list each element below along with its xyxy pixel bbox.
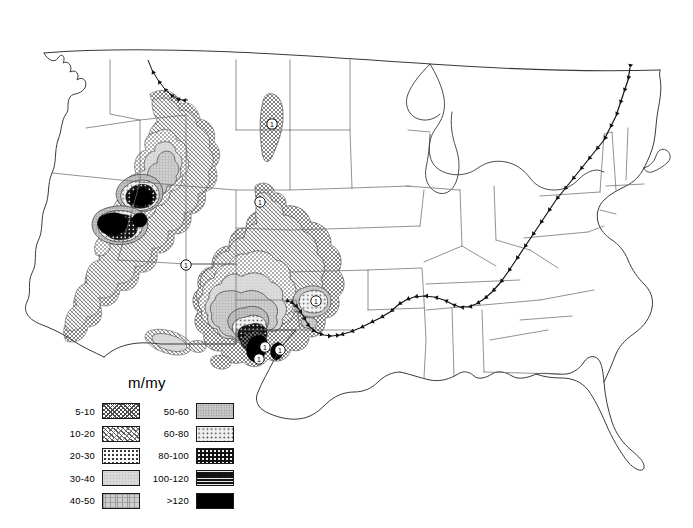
state-line-wa-id — [110, 60, 140, 120]
state-line-mn-ia — [352, 186, 410, 188]
legend-label: 60-80 — [134, 428, 196, 439]
legend-swatch — [196, 403, 234, 419]
legend-row: 100-120 — [134, 467, 234, 489]
legend-label: 50-60 — [134, 406, 196, 417]
legend-column-high: 50-6060-8080-100100-120>120 — [134, 400, 234, 512]
state-line-mississippi — [424, 300, 426, 378]
great-lakes — [429, 64, 604, 190]
state-line-il-in — [460, 190, 462, 246]
site-marker-label: 1 — [184, 262, 188, 269]
legend-row: 40-50 — [40, 490, 140, 512]
state-line-nh-me — [626, 128, 628, 180]
lake-michigan — [425, 112, 459, 194]
legend-column-low: 5-1010-2020-3030-4040-50 — [40, 400, 140, 512]
legend-row: 30-40 — [40, 467, 140, 489]
site-marker-label: 1 — [263, 344, 267, 351]
site-marker-label: 1 — [258, 199, 262, 206]
legend-row: 80-100 — [134, 445, 234, 467]
contour-sw-patch-c — [189, 340, 206, 352]
legend-swatch — [196, 493, 234, 509]
state-line-wi-il — [406, 186, 460, 190]
state-line-ia-il — [420, 190, 424, 226]
state-line-al-ga — [482, 310, 484, 372]
state-line-mo-ar — [368, 268, 424, 300]
coast-atlantic — [597, 168, 652, 382]
coast-pacific-northwest — [44, 53, 86, 140]
contour-gt120-nevada-small — [132, 213, 147, 227]
state-line-nc-sc — [520, 316, 572, 320]
marker-montana: 1 — [267, 119, 277, 129]
legend-row: 60-80 — [134, 422, 234, 444]
state-line-ny-vt — [600, 132, 612, 192]
legend-row: 20-30 — [40, 445, 140, 467]
legend-label: 30-40 — [40, 473, 102, 484]
legend-swatch — [196, 426, 234, 442]
state-line-pa-ny — [540, 192, 600, 196]
state-line-mo-il — [424, 246, 462, 262]
state-line-nd-mn — [350, 60, 352, 188]
state-line-ky-tn — [426, 280, 520, 284]
legend-swatch — [196, 470, 234, 486]
marker-utah: 1 — [181, 260, 191, 270]
legend-row: 5-10 — [40, 400, 140, 422]
state-line-or-id — [86, 120, 140, 182]
state-line-ky-il — [462, 246, 496, 266]
state-line-nj — [600, 210, 616, 214]
coast-newengland — [644, 70, 661, 168]
site-marker-label: 1 — [278, 347, 282, 354]
legend-label: 10-20 — [40, 428, 102, 439]
state-line-sd-ne — [290, 188, 352, 190]
state-line-ma — [606, 184, 644, 186]
legend-label: 100-120 — [134, 473, 196, 484]
state-line-ar-la — [368, 308, 424, 310]
state-line-oh-wv — [496, 240, 530, 250]
marker-riogrande-n: 1 — [260, 342, 270, 352]
state-line-wv-va — [530, 250, 558, 268]
legend-label: 20-30 — [40, 450, 102, 461]
marker-bigbend: 1 — [254, 354, 264, 364]
legend-label: 80-100 — [134, 450, 196, 461]
border-canada — [44, 50, 660, 71]
contour-nm-outlier-small — [301, 317, 317, 328]
contour-gt120-nevada — [98, 213, 128, 235]
state-line-ms-al — [452, 308, 454, 376]
marker-newmexico-ne: 1 — [311, 296, 321, 306]
legend-label: 40-50 — [40, 495, 102, 506]
state-line-mi-wi — [408, 130, 430, 132]
contour-sw-patch-d — [210, 355, 231, 369]
marker-riogrande-s: 1 — [275, 345, 285, 355]
legend-label: 5-10 — [40, 406, 102, 417]
state-line-ia-mo — [360, 226, 420, 228]
legend-row: 10-20 — [40, 422, 140, 444]
state-line-in-oh — [494, 186, 496, 240]
state-line-tn-nc — [426, 300, 540, 310]
map-figure: 1111111 m/my 5-1010-2020-3030-4040-50 50… — [0, 0, 693, 528]
legend-title: m/my — [102, 374, 192, 391]
thrust-fault-line — [340, 68, 630, 335]
legend-swatch — [196, 448, 234, 464]
marker-wyoming: 1 — [255, 197, 265, 207]
site-marker-label: 1 — [314, 298, 318, 305]
legend-label: >120 — [134, 495, 196, 506]
legend: m/my 5-1010-2020-3030-4040-50 50-6060-80… — [40, 374, 255, 522]
site-marker-label: 1 — [270, 121, 274, 128]
legend-row: >120 — [134, 490, 234, 512]
state-line-va-nc — [540, 290, 594, 300]
state-line-sc-ga — [490, 330, 548, 340]
site-marker-label: 1 — [257, 356, 261, 363]
legend-row: 50-60 — [134, 400, 234, 422]
state-line-vt-nh — [612, 132, 616, 190]
state-line-md-de — [588, 226, 604, 232]
